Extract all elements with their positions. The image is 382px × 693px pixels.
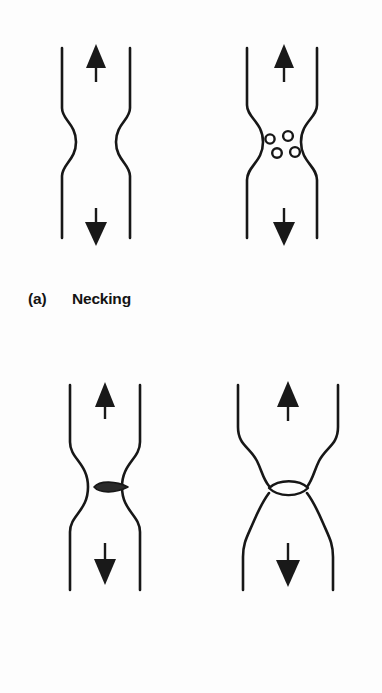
cavity-3 [272,148,282,158]
specimen-left-outline [62,48,76,238]
specimen-left-outline-lower [243,493,269,590]
surface-reaching-crack [269,481,308,495]
panel-a-caption-text: Necking [72,289,131,310]
panel-b: (b) Small cavities forming [191,0,382,280]
crack-propagates-diagram [191,347,382,627]
specimen-right-outline [116,48,130,238]
panel-c: (c) Cavities link up to form horizontal [0,347,191,627]
tension-arrow-up [274,44,294,82]
cavities-link-up-diagram [0,347,191,627]
cavity-2 [283,131,293,141]
specimen-right-outline-lower [307,493,333,590]
specimen-left-outline [247,48,263,238]
panel-a: (a) Necking [0,0,191,280]
tension-arrow-down [276,543,300,587]
cavity-4 [290,147,300,157]
necking-diagram [0,0,191,280]
tension-arrow-up [95,382,115,419]
panel-a-caption: (a) Necking [28,289,131,310]
specimen-right-outline [307,385,338,487]
tension-arrow-up [86,44,106,82]
specimen-right-outline [301,48,317,238]
cavity-1 [265,134,274,143]
specimen-left-outline [70,385,88,590]
tension-arrow-down [94,543,116,585]
tension-arrow-up [277,381,299,421]
cavities-forming-diagram [191,0,382,280]
ductile-fracture-figure: (a) Necking [0,0,382,693]
panel-d: (d) Crack propagates to surfaces [191,347,382,627]
specimen-left-outline [238,385,269,486]
tension-arrow-down [85,208,107,246]
panel-a-tag: (a) [28,289,62,310]
cavity-cluster [265,131,300,158]
tension-arrow-down [273,208,295,246]
